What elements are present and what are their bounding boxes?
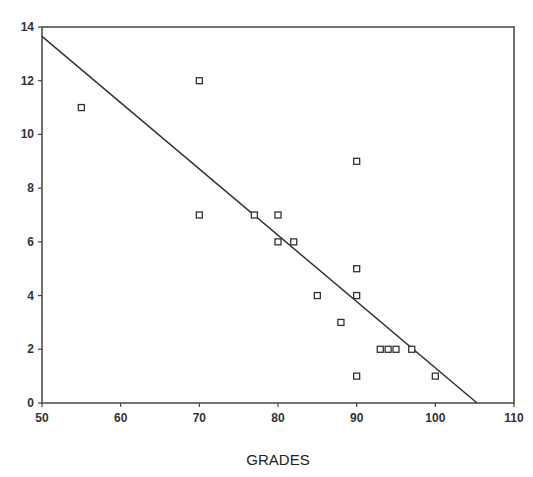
y-tick-label: 14 [21,20,35,34]
y-tick-label: 4 [27,289,34,303]
data-point-marker [196,212,202,218]
data-point-marker [409,346,415,352]
y-tick-label: 8 [27,181,34,195]
data-point-marker [275,239,281,245]
x-axis-title: GRADES [246,451,309,468]
x-tick-label: 70 [193,411,207,425]
data-point-marker [354,373,360,379]
x-tick-label: 50 [35,411,49,425]
data-point-marker [78,105,84,111]
x-tick-label: 80 [271,411,285,425]
data-point-marker [385,346,391,352]
data-point-marker [291,239,297,245]
x-tick-label: 100 [425,411,445,425]
scatter-chart: 02468101214 5060708090100110 GRADES [0,0,533,477]
data-point-marker [393,346,399,352]
data-point-marker [354,266,360,272]
data-point-marker [354,293,360,299]
data-point-marker [354,158,360,164]
data-point-marker [377,346,383,352]
y-tick-label: 12 [21,74,35,88]
data-point-marker [314,293,320,299]
data-point-marker [432,373,438,379]
y-tick-label: 0 [27,396,34,410]
data-point-marker [275,212,281,218]
x-axis-ticks: 5060708090100110 [35,403,524,425]
x-tick-label: 90 [350,411,364,425]
x-tick-label: 60 [114,411,128,425]
x-tick-label: 110 [504,411,524,425]
data-point-marker [338,319,344,325]
y-axis-ticks: 02468101214 [21,20,42,410]
data-point-marker [196,78,202,84]
y-tick-label: 6 [27,235,34,249]
data-point-marker [251,212,257,218]
y-tick-label: 2 [27,342,34,356]
y-tick-label: 10 [21,127,35,141]
data-points [78,78,438,379]
